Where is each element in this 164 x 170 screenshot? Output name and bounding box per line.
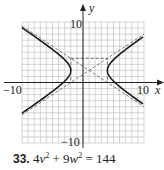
plus-sign: + — [49, 151, 63, 166]
y-axis-label: y — [88, 1, 95, 15]
equation: 4v2 + 9w2 = 144 — [33, 151, 116, 166]
x-min-tick-label: −10 — [3, 83, 22, 97]
exercise-caption: 33. 4v2 + 9w2 = 144 — [13, 151, 116, 167]
x-max-tick-label: 10 — [137, 83, 149, 97]
y-max-tick-label: 10 — [70, 17, 82, 31]
y-min-tick-label: −10 — [61, 135, 80, 149]
x-axis-label: x — [154, 83, 161, 97]
equals-sign: = — [82, 151, 96, 166]
exercise-number: 33. — [13, 152, 30, 166]
y-axis-arrow-icon — [80, 4, 86, 11]
var-w: w — [70, 151, 79, 166]
hyperbola-graph: 10 −10 −10 10 x y — [0, 0, 164, 150]
rhs-value: 144 — [96, 151, 116, 166]
